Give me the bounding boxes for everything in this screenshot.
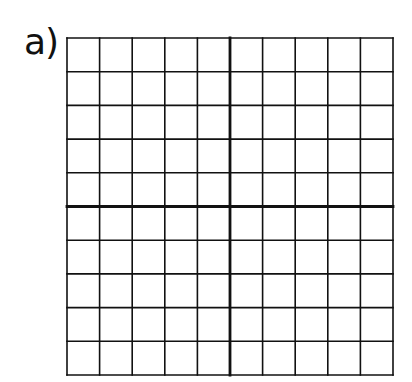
coordinate-grid [67,38,393,375]
problem-label: a) [24,22,58,62]
grid-lines [67,38,393,375]
